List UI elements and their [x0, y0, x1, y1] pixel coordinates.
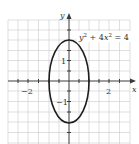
x-axis-arrow-icon — [130, 79, 136, 84]
tick-label-pos2: 2 — [106, 87, 111, 96]
y-axis-label: y — [59, 11, 65, 20]
tick-label-pos1: 1 — [61, 57, 66, 66]
tick-label-neg1: −1 — [56, 98, 68, 107]
ellipse-graph: y x −2 2 1 −1 y2 + 4x2 = 4 — [0, 0, 139, 144]
x-axis-label: x — [132, 85, 137, 94]
y-axis-arrow-icon — [67, 13, 72, 19]
tick-label-neg2: −2 — [21, 87, 33, 96]
